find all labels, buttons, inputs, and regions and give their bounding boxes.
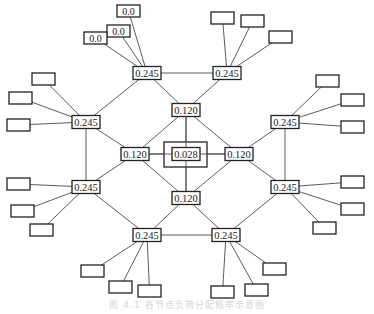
leaf-node bbox=[81, 265, 104, 277]
leaf-box bbox=[341, 176, 364, 188]
edge-o-ll-o-bl bbox=[86, 187, 147, 235]
ring-node: 0.120 bbox=[172, 104, 200, 117]
leaf-box bbox=[11, 205, 34, 217]
leaf-node bbox=[341, 94, 364, 106]
ring-node: 0.120 bbox=[225, 148, 253, 161]
outer-node: 0.245 bbox=[212, 229, 240, 242]
leaf-box bbox=[138, 285, 161, 297]
outer-node-label: 0.245 bbox=[74, 182, 98, 193]
leaf-label: 0.0 bbox=[112, 26, 125, 37]
leaf-node bbox=[7, 178, 30, 190]
outer-node-label: 0.245 bbox=[214, 230, 238, 241]
outer-node: 0.245 bbox=[72, 181, 100, 194]
ring-node-label: 0.120 bbox=[227, 149, 251, 160]
outer-node: 0.245 bbox=[133, 229, 161, 242]
leaf-node bbox=[211, 286, 234, 298]
ring-node: 0.120 bbox=[172, 192, 200, 205]
leaf-node bbox=[269, 31, 292, 43]
leaf-edge bbox=[227, 21, 253, 73]
leaf-box bbox=[81, 265, 104, 277]
leaf-box bbox=[211, 286, 234, 298]
ring-node-label: 0.120 bbox=[174, 193, 198, 204]
leaf-box bbox=[109, 281, 132, 293]
leaf-box bbox=[313, 222, 336, 234]
outer-node-label: 0.245 bbox=[135, 68, 159, 79]
leaf-node: 0.0 bbox=[107, 25, 130, 37]
network-diagram: 0.0280.1200.1200.1200.1200.2450.2450.245… bbox=[0, 0, 374, 314]
leaf-node bbox=[341, 176, 364, 188]
leaf-node: 0.0 bbox=[84, 32, 107, 44]
outer-node: 0.245 bbox=[271, 181, 299, 194]
edge-o-tl-o-lu bbox=[86, 73, 147, 122]
leaf-box bbox=[241, 15, 264, 27]
leaf-node bbox=[109, 281, 132, 293]
leaf-box bbox=[30, 224, 53, 236]
edge-o-br-o-rl bbox=[226, 187, 285, 235]
leaf-node bbox=[341, 121, 364, 133]
leaf-node bbox=[32, 73, 55, 85]
outer-node: 0.245 bbox=[213, 67, 241, 80]
leaf-label: 0.0 bbox=[89, 33, 102, 44]
leaf-box bbox=[341, 203, 364, 215]
leaf-edge bbox=[223, 235, 227, 292]
leaf-edge bbox=[223, 18, 228, 73]
leaf-node bbox=[341, 203, 364, 215]
leaf-box bbox=[7, 119, 30, 131]
outer-node-label: 0.245 bbox=[135, 230, 159, 241]
leaf-node bbox=[211, 12, 234, 24]
outer-node: 0.245 bbox=[72, 116, 100, 129]
leaf-label: 0.0 bbox=[122, 6, 135, 17]
center-node-label: 0.028 bbox=[174, 149, 198, 160]
leaf-box bbox=[269, 31, 292, 43]
leaf-node bbox=[9, 92, 32, 104]
outer-node-label: 0.245 bbox=[74, 117, 98, 128]
leaf-box bbox=[9, 92, 32, 104]
leaf-node bbox=[263, 263, 286, 275]
leaf-box bbox=[245, 284, 268, 296]
leaf-node bbox=[313, 222, 336, 234]
leaf-box bbox=[341, 94, 364, 106]
leaf-node: 0.0 bbox=[117, 5, 140, 17]
leaf-node bbox=[245, 284, 268, 296]
leaf-node bbox=[138, 285, 161, 297]
ring-node-label: 0.120 bbox=[123, 149, 147, 160]
outer-node-label: 0.245 bbox=[273, 117, 297, 128]
outer-node: 0.245 bbox=[133, 67, 161, 80]
leaf-edge bbox=[121, 235, 148, 287]
leaf-node bbox=[316, 75, 339, 87]
outer-node: 0.245 bbox=[271, 116, 299, 129]
ring-node-label: 0.120 bbox=[174, 105, 198, 116]
leaf-box bbox=[32, 73, 55, 85]
leaf-edge bbox=[129, 11, 148, 73]
leaf-box bbox=[341, 121, 364, 133]
outer-node-label: 0.245 bbox=[273, 182, 297, 193]
leaf-node bbox=[7, 119, 30, 131]
leaf-node bbox=[30, 224, 53, 236]
leaf-edge bbox=[147, 235, 150, 291]
leaf-box bbox=[211, 12, 234, 24]
nodes-layer: 0.0280.1200.1200.1200.1200.2450.2450.245… bbox=[72, 67, 299, 242]
leaf-box bbox=[263, 263, 286, 275]
leaf-box bbox=[316, 75, 339, 87]
leaf-edge bbox=[226, 235, 257, 290]
figure-caption: 图 4.1 各节点负荷分配概率示意图 bbox=[0, 298, 374, 311]
ring-node: 0.120 bbox=[121, 148, 149, 161]
leaf-node bbox=[11, 205, 34, 217]
outer-node-label: 0.245 bbox=[215, 68, 239, 79]
center-node: 0.028 bbox=[172, 148, 200, 161]
leaf-box bbox=[7, 178, 30, 190]
leaf-node bbox=[241, 15, 264, 27]
